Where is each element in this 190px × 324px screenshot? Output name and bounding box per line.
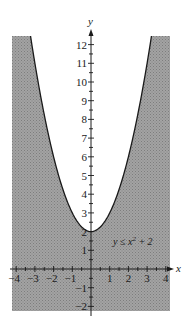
x-axis-label: x <box>175 262 181 274</box>
y-tick-label: −2 <box>75 300 87 312</box>
y-axis-arrow-icon <box>89 29 94 36</box>
x-tick-label: 1 <box>107 272 113 284</box>
x-tick-label: −4 <box>8 272 20 284</box>
y-tick-label: 3 <box>82 207 88 219</box>
y-tick-label: 7 <box>82 132 88 144</box>
x-tick-label: 4 <box>163 272 169 284</box>
y-tick-label: 9 <box>82 95 88 107</box>
x-tick-label: 2 <box>126 272 132 284</box>
y-tick-label: −1 <box>75 282 87 294</box>
inequality-label: y ≤ x2 + 2 <box>112 235 153 247</box>
y-tick-label: 1 <box>82 244 88 256</box>
x-tick-label: 3 <box>144 272 150 284</box>
x-tick-label: −2 <box>46 272 58 284</box>
y-axis-label: y <box>87 15 93 27</box>
y-tick-label: 8 <box>82 113 88 125</box>
y-tick-label: 12 <box>76 39 87 51</box>
y-tick-label: 11 <box>76 57 87 69</box>
y-tick-label: 5 <box>82 170 88 182</box>
y-tick-label: 10 <box>76 76 88 88</box>
y-tick-label: 2 <box>82 226 88 238</box>
y-tick-label: 4 <box>82 188 88 200</box>
y-tick-label: 6 <box>82 151 88 163</box>
inequality-graph: −4−3−2−11234−2−1123456789101112 x y y ≤ … <box>0 0 190 324</box>
x-axis-arrow-icon <box>167 267 174 272</box>
x-tick-label: −3 <box>27 272 39 284</box>
